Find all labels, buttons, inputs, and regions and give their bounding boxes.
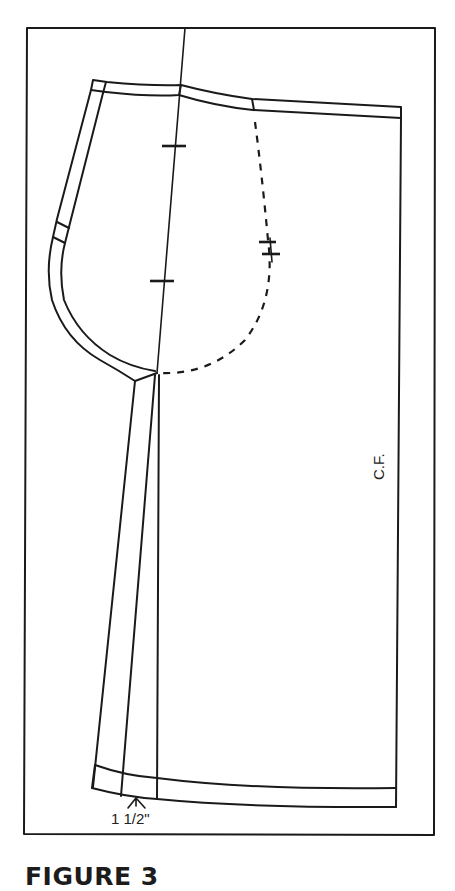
hem-measure-label: 1 1/2" xyxy=(111,810,150,827)
measure-arrow-icon xyxy=(128,798,145,808)
inseam-inner xyxy=(157,375,159,799)
pocket-dashed-line xyxy=(160,122,270,373)
center-front-edge xyxy=(396,118,401,807)
inseam-middle xyxy=(121,375,155,796)
waistband-right xyxy=(179,85,401,118)
hem-bottom xyxy=(92,788,396,807)
figure-caption: FIGURE 3 xyxy=(25,862,159,891)
pants-pattern-diagram: 1 1/2" C.F. xyxy=(0,0,455,891)
center-front-label: C.F. xyxy=(370,453,387,480)
grainline xyxy=(157,28,185,373)
waistband-right-divider xyxy=(252,99,254,110)
hem-top xyxy=(95,765,396,788)
inseam-outer xyxy=(93,381,135,787)
side-seam-outer xyxy=(49,90,157,381)
frame-border xyxy=(24,28,435,835)
side-seam-inner xyxy=(61,93,155,371)
